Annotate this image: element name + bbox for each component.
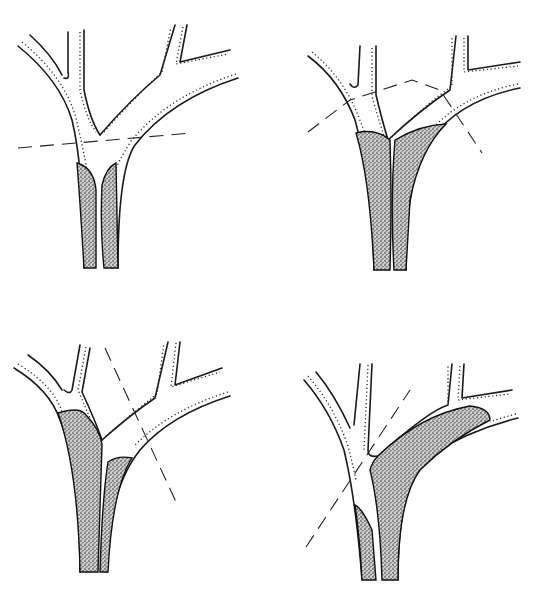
stippled-fill-right — [100, 457, 132, 572]
vessel-wall-crotch — [100, 25, 175, 135]
stippled-fill-right — [101, 163, 118, 268]
panel-bottom-left — [14, 342, 230, 572]
vessel-wall-branch-left — [30, 35, 62, 75]
stippled-fill-left — [356, 132, 391, 270]
stippled-fill-left — [77, 163, 96, 268]
panel-top-left — [18, 25, 238, 268]
panel-bottom-right — [304, 364, 518, 580]
stippled-fill-right — [370, 406, 490, 580]
stippled-fill-left — [58, 410, 102, 572]
figure-stage — [0, 0, 544, 599]
panel-top-right — [308, 36, 520, 270]
section-cut-line — [18, 133, 192, 148]
vessel-wall-right-outer — [118, 78, 238, 268]
stippled-fill-right — [392, 124, 446, 270]
vessel-diagram-figure — [0, 0, 544, 599]
vessel-wall-left-outer — [18, 46, 84, 268]
